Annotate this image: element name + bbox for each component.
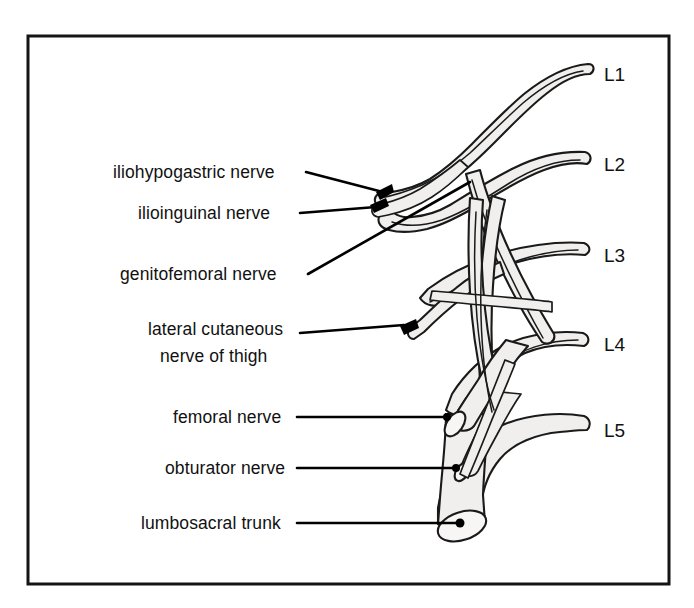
root-label-l4: L4: [604, 334, 626, 355]
leader-dot-femoral: [443, 413, 451, 421]
figure-page: iliohypogastric nerve ilioinguinal nerve…: [0, 0, 694, 608]
label-obturator-nerve: obturator nerve: [165, 458, 285, 478]
label-lateral-cutaneous-line1: lateral cutaneous: [148, 319, 283, 339]
root-label-l1: L1: [604, 64, 625, 85]
lumbar-plexus-figure: iliohypogastric nerve ilioinguinal nerve…: [0, 0, 694, 608]
root-labels-group: L1 L2 L3 L4 L5: [604, 64, 626, 441]
label-iliohypogastric-nerve: iliohypogastric nerve: [113, 162, 275, 182]
label-lateral-cutaneous-line2: nerve of thigh: [160, 346, 267, 366]
leader-dot-obturator: [452, 464, 460, 472]
label-ilioinguinal-nerve: ilioinguinal nerve: [138, 203, 270, 223]
leader-ilioinguinal: [300, 207, 376, 213]
root-label-l3: L3: [604, 245, 625, 266]
label-genitofemoral-nerve: genitofemoral nerve: [120, 264, 277, 284]
nerve-labels-group: iliohypogastric nerve ilioinguinal nerve…: [113, 162, 285, 533]
leader-dot-lumbosacral: [456, 519, 465, 528]
leader-iliohypogastric: [306, 172, 379, 191]
root-label-l5: L5: [604, 420, 625, 441]
nerve-anatomy-group: [370, 64, 594, 547]
figure-border: [28, 36, 669, 584]
leader-lateral-cutaneous: [300, 325, 404, 333]
root-label-l2: L2: [604, 154, 625, 175]
label-femoral-nerve: femoral nerve: [173, 407, 281, 427]
label-lumbosacral-trunk: lumbosacral trunk: [141, 513, 281, 533]
